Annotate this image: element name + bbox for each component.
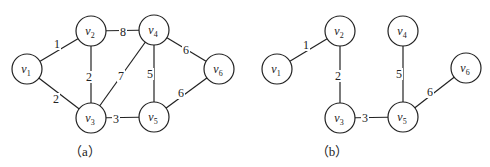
edge-weight-label: 2 [335, 69, 341, 83]
node-v2: v2 [325, 16, 355, 46]
node-v4: v4 [388, 16, 418, 46]
node-v6: v6 [451, 53, 481, 83]
edge-weight-label: 3 [362, 111, 368, 125]
figure-b-spanning-tree: 12563v1v2v4v6v3v5（b） [262, 16, 481, 159]
node-v1: v1 [12, 54, 42, 84]
edge-weight-label: 3 [113, 112, 119, 126]
node-v5: v5 [139, 102, 169, 132]
node-v1: v1 [262, 54, 292, 84]
edge-weight-label: 2 [53, 92, 59, 106]
graph-diagram-canvas: 128275663v1v2v4v6v3v5（a） 12563v1v2v4v6v3… [0, 0, 490, 167]
edge-weight-label: 8 [120, 25, 126, 39]
edge-weight-label: 5 [147, 67, 153, 81]
edge-weight-label: 2 [86, 70, 92, 84]
node-v4: v4 [139, 15, 169, 45]
edge-weight-label: 6 [427, 85, 433, 99]
node-v3: v3 [76, 103, 106, 133]
node-v6: v6 [204, 54, 234, 84]
node-v3: v3 [325, 103, 355, 133]
edge-weight-label: 7 [118, 69, 124, 83]
edge-weight-label: 5 [396, 67, 402, 81]
figure-caption-b: （b） [316, 144, 349, 159]
figure-a-full-graph: 128275663v1v2v4v6v3v5（a） [12, 15, 234, 159]
edge-weight-label: 6 [178, 86, 184, 100]
edge-weight-label: 1 [54, 37, 60, 51]
edge-weight-label: 1 [303, 38, 309, 52]
edge-weight-label: 6 [183, 43, 189, 57]
figure-caption-a: （a） [69, 144, 101, 159]
node-v5: v5 [388, 102, 418, 132]
node-v2: v2 [76, 16, 106, 46]
